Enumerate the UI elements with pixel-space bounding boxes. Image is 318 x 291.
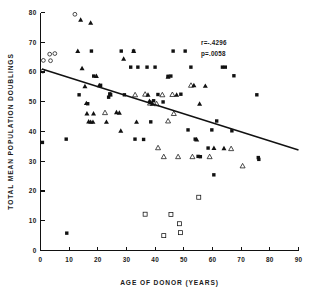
point-filled-square xyxy=(183,49,186,52)
point-filled-triangle xyxy=(84,111,89,115)
point-filled-triangle xyxy=(134,119,139,123)
point-open-circle xyxy=(73,12,77,16)
x-tick-label: 0 xyxy=(39,256,43,263)
series-filled-triangle xyxy=(75,17,226,150)
point-filled-triangle xyxy=(88,20,93,24)
annotation-p-value: p=.0058 xyxy=(201,50,226,58)
series-filled-square xyxy=(41,49,261,234)
point-open-triangle xyxy=(161,154,166,158)
chart-canvas: 010203040506070809001020304050607080 r=-… xyxy=(0,0,318,291)
point-open-triangle xyxy=(166,118,171,122)
y-tick-label: 50 xyxy=(29,98,37,105)
point-open-square xyxy=(197,195,201,199)
series-open-square xyxy=(143,195,201,237)
point-open-square xyxy=(162,234,166,238)
point-filled-square xyxy=(255,93,258,96)
point-filled-triangle xyxy=(104,119,109,123)
point-filled-triangle xyxy=(80,66,85,70)
y-tick-label: 80 xyxy=(29,9,37,16)
x-tick-label: 90 xyxy=(295,256,303,263)
y-tick-label: 60 xyxy=(29,68,37,75)
point-open-triangle xyxy=(156,145,161,149)
point-open-triangle xyxy=(176,154,181,158)
point-open-circle xyxy=(49,59,53,63)
point-filled-square xyxy=(232,74,235,77)
y-axis-title: TOTAL MEAN POPULATION DOUBLINGS xyxy=(7,53,14,209)
point-open-circle xyxy=(48,52,52,56)
point-filled-triangle xyxy=(211,146,216,150)
point-filled-square xyxy=(153,65,156,68)
series-open-circle xyxy=(41,12,77,73)
y-tick-label: 10 xyxy=(29,217,37,224)
point-filled-triangle xyxy=(121,56,126,60)
x-axis-title: AGE OF DONOR (YEARS) xyxy=(120,279,219,287)
point-filled-square xyxy=(142,138,145,141)
point-open-square xyxy=(169,213,173,217)
point-filled-square xyxy=(171,49,174,52)
regression-trend-line xyxy=(42,69,299,150)
point-open-triangle xyxy=(229,146,234,150)
scatter-plot-figure: 010203040506070809001020304050607080 r=-… xyxy=(0,0,318,291)
x-tick-label: 60 xyxy=(209,256,217,263)
regression-line xyxy=(42,69,299,150)
point-filled-square xyxy=(206,146,209,149)
point-filled-square xyxy=(133,137,136,140)
y-tick-label: 20 xyxy=(29,187,37,194)
point-filled-square xyxy=(41,141,44,144)
point-filled-square xyxy=(149,120,152,123)
point-filled-triangle xyxy=(221,146,226,150)
annotation-correlation: r=-.4296 xyxy=(201,39,227,46)
point-filled-triangle xyxy=(203,83,208,87)
point-filled-triangle xyxy=(197,101,202,105)
axes xyxy=(41,13,299,251)
point-open-triangle xyxy=(240,163,245,167)
point-filled-square xyxy=(156,93,159,96)
point-open-triangle xyxy=(170,92,175,96)
point-open-circle xyxy=(41,58,45,62)
point-filled-square xyxy=(199,155,202,158)
point-filled-square xyxy=(65,137,68,140)
y-tick-label: 30 xyxy=(29,158,37,165)
point-open-triangle xyxy=(143,92,148,96)
point-filled-square xyxy=(257,158,260,161)
x-tick-label: 30 xyxy=(123,256,131,263)
y-tick-label: 0 xyxy=(33,247,37,254)
point-open-triangle xyxy=(190,154,195,158)
statistics-annotations: r=-.4296p=.0058 xyxy=(201,39,227,57)
x-tick-label: 80 xyxy=(266,256,274,263)
point-open-square xyxy=(178,222,182,226)
point-filled-square xyxy=(210,128,213,131)
point-open-triangle xyxy=(160,92,165,96)
point-filled-square xyxy=(120,49,123,52)
y-tick-label: 40 xyxy=(29,128,37,135)
point-open-square xyxy=(143,212,147,216)
point-filled-triangle xyxy=(75,49,80,53)
axis-ticks xyxy=(41,13,299,251)
point-filled-square xyxy=(77,93,80,96)
point-filled-square xyxy=(186,128,189,131)
x-tick-label: 50 xyxy=(180,256,188,263)
point-filled-square xyxy=(145,65,148,68)
point-filled-triangle xyxy=(118,128,123,132)
x-tick-label: 40 xyxy=(151,256,159,263)
axis-frame xyxy=(41,13,299,251)
point-open-triangle xyxy=(103,110,108,114)
axis-titles: AGE OF DONOR (YEARS)TOTAL MEAN POPULATIO… xyxy=(7,53,219,287)
point-filled-square xyxy=(161,100,164,103)
x-tick-label: 20 xyxy=(94,256,102,263)
point-filled-triangle xyxy=(82,84,87,88)
point-filled-square xyxy=(136,65,139,68)
point-filled-triangle xyxy=(91,111,96,115)
point-filled-square xyxy=(212,173,215,176)
point-open-triangle xyxy=(133,92,138,96)
point-filled-square xyxy=(65,231,68,234)
point-open-circle xyxy=(53,52,57,56)
axis-tick-labels: 010203040506070809001020304050607080 xyxy=(29,9,303,263)
point-filled-square xyxy=(189,65,192,68)
point-filled-square xyxy=(179,93,182,96)
x-tick-label: 10 xyxy=(65,256,73,263)
point-open-square xyxy=(178,231,182,235)
point-filled-square xyxy=(90,49,93,52)
y-tick-label: 70 xyxy=(29,39,37,46)
x-tick-label: 70 xyxy=(237,256,245,263)
